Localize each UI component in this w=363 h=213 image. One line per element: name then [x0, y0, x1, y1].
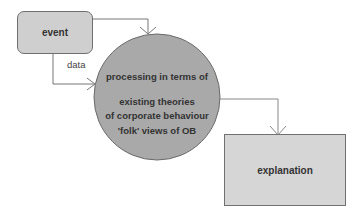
- event-label: event: [42, 27, 68, 38]
- edge-event-processing: [93, 19, 148, 33]
- event-node: event: [17, 11, 93, 54]
- explanation-node: explanation: [224, 134, 346, 206]
- processing-line-1: processing in terms of: [94, 72, 220, 82]
- explanation-label: explanation: [257, 165, 313, 176]
- processing-line-2: existing theories: [94, 97, 220, 107]
- data-edge-label: data: [67, 59, 86, 70]
- edge-processing-explanation: [220, 99, 278, 134]
- processing-line-4: 'folk' views of OB: [94, 126, 220, 136]
- processing-line-3: of corporate behaviour: [94, 111, 220, 121]
